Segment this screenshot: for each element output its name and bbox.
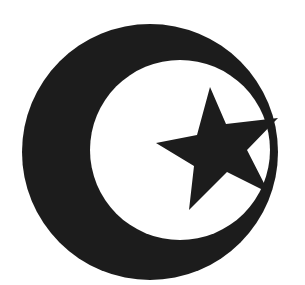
crescent-star-emblem: [0, 0, 305, 285]
